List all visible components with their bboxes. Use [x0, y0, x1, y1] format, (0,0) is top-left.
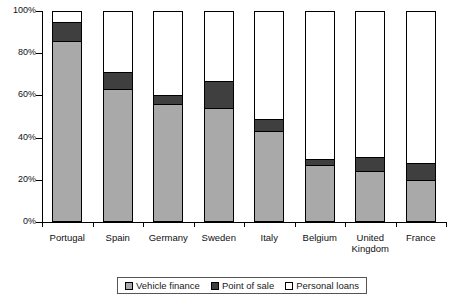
x-axis-tick-label: Germany	[143, 232, 194, 243]
bar-segment	[305, 11, 335, 159]
y-axis-tick	[36, 11, 42, 12]
bar-segment	[254, 119, 284, 132]
y-axis-tick-label: 0%	[2, 217, 36, 226]
x-axis-tick-label: United Kingdom	[345, 232, 396, 254]
bar-segment	[103, 89, 133, 222]
y-axis-tick	[36, 53, 42, 54]
y-axis-tick	[36, 180, 42, 181]
x-axis-tick-label: Belgium	[295, 232, 346, 243]
bar-stack	[153, 11, 183, 222]
bar-segment	[52, 41, 82, 222]
bar-segment	[204, 11, 234, 81]
legend-swatch-icon	[211, 282, 219, 290]
x-axis-tick	[42, 222, 43, 227]
legend-swatch-icon	[285, 282, 293, 290]
x-axis-tick	[194, 222, 195, 227]
legend-label: Personal loans	[296, 281, 359, 291]
x-axis-tick	[143, 222, 144, 227]
bar-segment	[406, 11, 436, 163]
plot-area	[42, 11, 446, 222]
y-axis-tick-label: 80%	[2, 48, 36, 57]
bar-segment	[355, 157, 385, 172]
bar-segment	[153, 95, 183, 103]
x-axis-tick-label: France	[396, 232, 447, 243]
bar-segment	[305, 165, 335, 222]
bar-segment	[103, 72, 133, 89]
x-axis-tick	[396, 222, 397, 227]
stacked-bar-chart: 0%20%40%60%80%100% PortugalSpainGermanyS…	[0, 0, 452, 301]
y-axis-tick-label: 20%	[2, 175, 36, 184]
bar-stack	[204, 11, 234, 222]
legend-label: Point of sale	[222, 281, 274, 291]
y-axis: 0%20%40%60%80%100%	[0, 0, 36, 301]
bar-segment	[355, 171, 385, 222]
y-axis-tick-label: 40%	[2, 133, 36, 142]
bar-segment	[153, 104, 183, 222]
x-axis-tick-label: Italy	[244, 232, 295, 243]
bar-segment	[153, 11, 183, 95]
bar-segment	[254, 131, 284, 222]
x-axis-tick	[345, 222, 346, 227]
x-axis-tick-label: Portugal	[42, 232, 93, 243]
bar-stack	[52, 11, 82, 222]
x-axis-tick	[244, 222, 245, 227]
x-axis-tick	[295, 222, 296, 227]
bar-segment	[254, 11, 284, 119]
x-axis-tick	[446, 222, 447, 227]
y-axis-tick	[36, 138, 42, 139]
bar-segment	[103, 11, 133, 72]
bar-segment	[52, 11, 82, 22]
bar-stack	[254, 11, 284, 222]
y-axis-tick-label: 60%	[2, 90, 36, 99]
y-axis-tick-label: 100%	[2, 6, 36, 15]
x-axis-tick	[93, 222, 94, 227]
bar-segment	[204, 108, 234, 222]
x-axis-tick-label: Spain	[93, 232, 144, 243]
bar-segment	[406, 180, 436, 222]
bar-segment	[52, 22, 82, 41]
legend-swatch-icon	[125, 282, 133, 290]
bar-stack	[406, 11, 436, 222]
legend-label: Vehicle finance	[136, 281, 200, 291]
chart-legend: Vehicle financePoint of salePersonal loa…	[117, 277, 367, 294]
legend-item: Personal loans	[285, 281, 359, 291]
y-axis-tick	[36, 95, 42, 96]
bar-stack	[355, 11, 385, 222]
legend-item: Point of sale	[211, 281, 274, 291]
bar-segment	[355, 11, 385, 157]
legend-item: Vehicle finance	[125, 281, 200, 291]
bar-segment	[406, 163, 436, 180]
bar-stack	[103, 11, 133, 222]
x-axis-tick-label: Sweden	[194, 232, 245, 243]
bar-segment	[204, 81, 234, 108]
bar-stack	[305, 11, 335, 222]
